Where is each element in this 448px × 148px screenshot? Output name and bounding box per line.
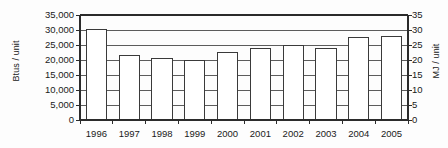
chart-container: Btus / unit MJ / unit 05,00010,00015,000…	[0, 0, 448, 148]
x-axis-tick-label: 1996	[80, 124, 113, 146]
x-axis-tick-label: 2004	[342, 124, 375, 146]
x-axis-tick-labels: 1996199719981999200020012002200320042005	[80, 124, 408, 146]
x-axis-tick-label: 1998	[146, 124, 179, 146]
x-axis-tick-label: 2000	[211, 124, 244, 146]
x-axis-tick-label: 1997	[113, 124, 146, 146]
x-axis-tick-label: 2002	[277, 124, 310, 146]
x-axis-tick-label: 2003	[310, 124, 343, 146]
x-axis-tick-label: 1999	[178, 124, 211, 146]
x-axis-tick-label: 2005	[375, 124, 408, 146]
x-axis-tick-label: 2001	[244, 124, 277, 146]
